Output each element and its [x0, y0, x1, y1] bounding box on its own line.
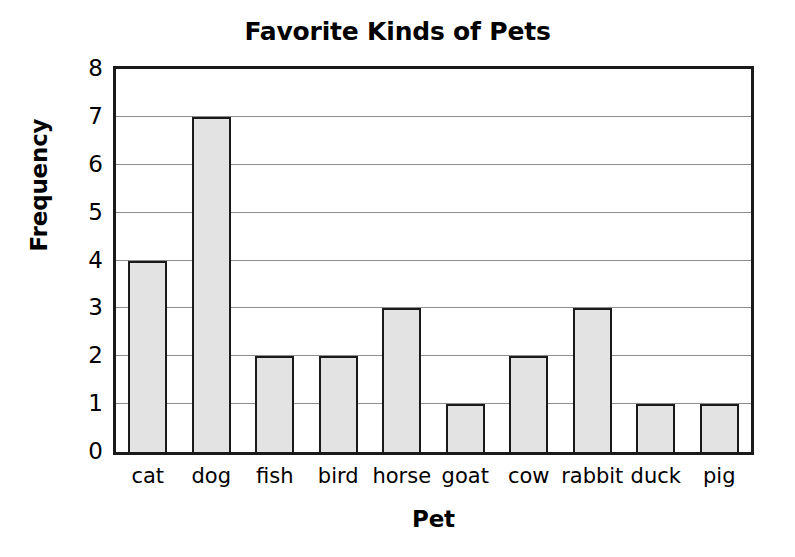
x-tick-label: horse — [370, 466, 434, 487]
bar-chart-figure: Favorite Kinds of Pets Frequency 0123456… — [0, 0, 795, 557]
plot-inner — [116, 69, 751, 452]
x-axis-title: Pet — [113, 506, 754, 532]
x-tick-label: fish — [243, 466, 307, 487]
bar — [446, 404, 485, 452]
y-tick-label: 7 — [63, 105, 103, 128]
bar — [382, 308, 421, 452]
bar — [255, 356, 294, 452]
bar — [509, 356, 548, 452]
x-tick-label: dog — [180, 466, 244, 487]
chart-title: Favorite Kinds of Pets — [0, 18, 795, 46]
x-tick-label: goat — [434, 466, 498, 487]
y-tick-label: 3 — [63, 296, 103, 319]
bar — [128, 261, 167, 453]
y-tick-label: 5 — [63, 201, 103, 224]
x-axis-tick-labels: catdogfishbirdhorsegoatcowrabbitduckpig — [113, 466, 754, 496]
x-tick-label: cat — [116, 466, 180, 487]
bar — [636, 404, 675, 452]
bar — [573, 308, 612, 452]
x-tick-label: rabbit — [561, 466, 625, 487]
y-axis-title: Frequency — [26, 85, 52, 285]
bar — [700, 404, 739, 452]
y-tick-label: 1 — [63, 392, 103, 415]
y-tick-label: 6 — [63, 153, 103, 176]
x-tick-label: pig — [688, 466, 752, 487]
y-tick-label: 0 — [63, 440, 103, 463]
y-axis-tick-labels: 012345678 — [53, 66, 103, 455]
y-tick-label: 4 — [63, 249, 103, 272]
y-tick-label: 2 — [63, 344, 103, 367]
x-tick-label: cow — [497, 466, 561, 487]
y-tick-label: 8 — [63, 57, 103, 80]
plot-area — [113, 66, 754, 455]
bar — [192, 117, 231, 452]
x-tick-label: duck — [624, 466, 688, 487]
x-tick-label: bird — [307, 466, 371, 487]
bar — [319, 356, 358, 452]
